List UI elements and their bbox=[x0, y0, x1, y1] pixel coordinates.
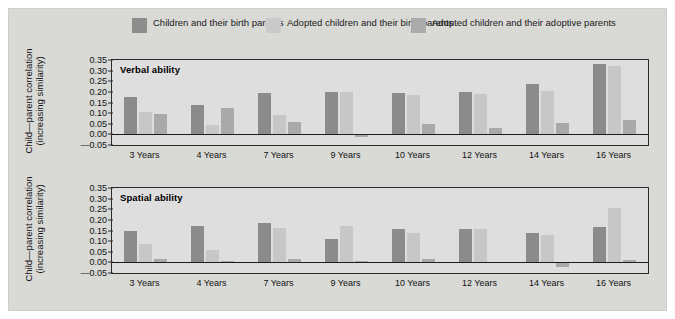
bar[interactable] bbox=[206, 125, 219, 135]
bar[interactable] bbox=[407, 95, 420, 134]
y-axis-tick: 0.30 bbox=[67, 66, 107, 76]
bar[interactable] bbox=[608, 66, 621, 134]
chart-title-spatial: Spatial ability bbox=[120, 192, 183, 203]
bar[interactable] bbox=[221, 108, 234, 135]
y-axis-tick-mark bbox=[108, 81, 113, 82]
y-axis-tick: 0.15 bbox=[67, 226, 107, 236]
y-axis-tick-mark bbox=[108, 241, 113, 242]
bar[interactable] bbox=[273, 115, 286, 134]
bar[interactable] bbox=[422, 124, 435, 135]
bar[interactable] bbox=[392, 229, 405, 262]
bar[interactable] bbox=[526, 233, 539, 263]
x-axis-label: 3 Years bbox=[129, 150, 159, 160]
bar-group bbox=[392, 60, 435, 145]
bar[interactable] bbox=[541, 91, 554, 135]
bar[interactable] bbox=[526, 84, 539, 134]
x-axis-label: 10 Years bbox=[395, 150, 430, 160]
legend-label-line2: and their adoptive parents bbox=[506, 17, 616, 28]
bar[interactable] bbox=[288, 122, 301, 135]
y-axis-tick-mark bbox=[108, 70, 113, 71]
y-axis-tick-mark bbox=[108, 145, 113, 146]
x-axis-label: 9 Years bbox=[330, 278, 360, 288]
y-axis-tick-mark bbox=[108, 219, 113, 220]
bar-group bbox=[459, 188, 502, 273]
bar[interactable] bbox=[206, 250, 219, 263]
bar[interactable] bbox=[154, 114, 167, 134]
y-axis-tick-mark bbox=[108, 188, 113, 189]
bar[interactable] bbox=[392, 93, 405, 134]
y-axis-tick: 0.25 bbox=[67, 76, 107, 86]
y-axis-tick-mark bbox=[108, 198, 113, 199]
bar[interactable] bbox=[325, 239, 338, 262]
bar-group bbox=[325, 60, 368, 145]
bar[interactable] bbox=[593, 64, 606, 134]
bar[interactable] bbox=[623, 120, 636, 135]
y-axis-label-spatial: Child—parent correlation (increasing sim… bbox=[23, 159, 45, 299]
y-axis-tick: 0.10 bbox=[67, 236, 107, 246]
y-axis-tick: —0.05 bbox=[67, 140, 107, 150]
bar-group bbox=[526, 188, 569, 273]
bar-group bbox=[392, 188, 435, 273]
y-axis-tick-mark bbox=[108, 102, 113, 103]
bar[interactable] bbox=[474, 94, 487, 134]
y-axis-tick-mark bbox=[108, 123, 113, 124]
bar[interactable] bbox=[556, 123, 569, 135]
bar[interactable] bbox=[139, 244, 152, 262]
x-axis-label: 14 Years bbox=[529, 278, 564, 288]
y-axis-tick: —0.05 bbox=[67, 268, 107, 278]
figure-container: Children and their birth parents Adopted… bbox=[8, 8, 667, 311]
bar[interactable] bbox=[407, 233, 420, 263]
x-axis-label: 10 Years bbox=[395, 278, 430, 288]
bar[interactable] bbox=[325, 92, 338, 135]
bar[interactable] bbox=[459, 92, 472, 135]
x-axis-label: 7 Years bbox=[263, 278, 293, 288]
x-axis-label: 9 Years bbox=[330, 150, 360, 160]
legend-item-adopted-adoptive: Adopted children and their adoptive pare… bbox=[411, 17, 616, 33]
x-axis-label: 16 Years bbox=[596, 278, 631, 288]
plot-area-verbal: Verbal ability 0.350.300.250.200.150.100… bbox=[111, 59, 649, 146]
legend-swatch-adopted-birth-icon bbox=[266, 18, 281, 33]
y-axis-tick: 0.20 bbox=[67, 87, 107, 97]
legend-swatch-adopted-adoptive-icon bbox=[411, 18, 426, 33]
x-axis-label: 12 Years bbox=[462, 150, 497, 160]
y-axis-tick-mark bbox=[108, 251, 113, 252]
legend-label-line1: Adopted children bbox=[287, 17, 358, 28]
bar[interactable] bbox=[474, 229, 487, 262]
x-axis-label: 12 Years bbox=[462, 278, 497, 288]
panel-spatial-ability: Child—parent correlation (increasing sim… bbox=[9, 179, 668, 307]
bar-group bbox=[593, 60, 636, 145]
bar[interactable] bbox=[273, 228, 286, 262]
bar-group bbox=[325, 188, 368, 273]
zero-baseline bbox=[112, 134, 648, 135]
bar[interactable] bbox=[191, 226, 204, 262]
bar[interactable] bbox=[124, 97, 137, 134]
x-axis-label: 3 Years bbox=[129, 278, 159, 288]
y-axis-tick-mark bbox=[108, 230, 113, 231]
bar[interactable] bbox=[124, 231, 137, 263]
bar-group bbox=[191, 188, 234, 273]
x-axis-label: 16 Years bbox=[596, 150, 631, 160]
bar[interactable] bbox=[459, 229, 472, 262]
chart-title-verbal: Verbal ability bbox=[120, 64, 180, 75]
y-axis-label-line1: Child—parent correlation bbox=[23, 31, 34, 171]
bar[interactable] bbox=[258, 223, 271, 263]
legend-label-line1: Children bbox=[153, 17, 188, 28]
x-axis-label: 7 Years bbox=[263, 150, 293, 160]
y-axis-tick-mark bbox=[108, 113, 113, 114]
bar[interactable] bbox=[593, 227, 606, 262]
bar[interactable] bbox=[191, 105, 204, 134]
bar[interactable] bbox=[608, 208, 621, 262]
plot-area-spatial: Spatial ability 0.350.300.250.200.150.10… bbox=[111, 187, 649, 274]
panel-verbal-ability: Child—parent correlation (increasing sim… bbox=[9, 51, 668, 179]
x-axis-label: 14 Years bbox=[529, 150, 564, 160]
bar-group bbox=[258, 188, 301, 273]
x-axis-labels-spatial: 3 Years4 Years7 Years9 Years10 Years12 Y… bbox=[111, 278, 649, 294]
bar[interactable] bbox=[258, 93, 271, 134]
y-axis-tick: 0.05 bbox=[67, 119, 107, 129]
bar[interactable] bbox=[139, 112, 152, 134]
legend-swatch-children-birth-icon bbox=[132, 18, 147, 33]
bar[interactable] bbox=[340, 92, 353, 135]
bar[interactable] bbox=[340, 226, 353, 263]
bar[interactable] bbox=[541, 235, 554, 263]
y-axis-tick: 0.20 bbox=[67, 215, 107, 225]
